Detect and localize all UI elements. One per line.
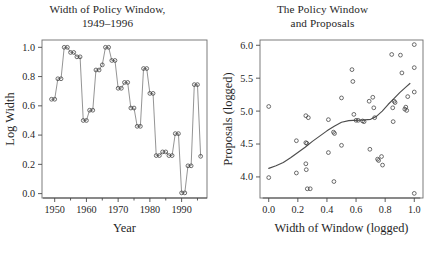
right-y-tick-label: 4.0 xyxy=(240,171,253,182)
left-y-tick-label: 0.8 xyxy=(22,71,35,82)
left-x-tick-label: 1990 xyxy=(171,204,191,215)
left-y-tick-label: 0.4 xyxy=(22,129,35,140)
right-x-tick-label: 0.0 xyxy=(262,204,275,215)
left-y-tick-label: 0.0 xyxy=(22,188,35,199)
right-x-tick-label: 1.0 xyxy=(408,204,421,215)
panel-width-of-policy-window: Width of Policy Window, 1949–1996 0.00.2… xyxy=(0,0,215,256)
figure-container: Width of Policy Window, 1949–1996 0.00.2… xyxy=(0,0,430,256)
loess-smoother-curve xyxy=(269,83,410,168)
left-y-tick-label: 0.6 xyxy=(22,100,35,111)
left-y-tick-label: 1.0 xyxy=(22,42,35,53)
left-x-tick-label: 1970 xyxy=(108,204,128,215)
right-y-tick-label: 5.0 xyxy=(240,106,253,117)
right-y-tick-label: 6.0 xyxy=(240,40,253,51)
left-x-tick-label: 1960 xyxy=(76,204,96,215)
right-plot-svg: 4.04.55.05.56.00.00.20.40.60.81.0Width o… xyxy=(215,0,430,256)
right-y-tick-label: 4.5 xyxy=(240,138,253,149)
left-y-axis-title: Log Width xyxy=(3,92,17,146)
right-x-tick-label: 0.8 xyxy=(379,204,392,215)
right-x-axis-title: Width of Window (logged) xyxy=(274,221,408,235)
log-width-series-line xyxy=(52,47,201,193)
left-plot-svg: 0.00.20.40.60.81.019501960197019801990Ye… xyxy=(0,0,215,256)
left-x-tick-label: 1950 xyxy=(45,204,65,215)
panel-policy-window-and-proposals: The Policy Window and Proposals 4.04.55.… xyxy=(215,0,430,256)
right-x-tick-label: 0.2 xyxy=(291,204,304,215)
left-x-tick-label: 1980 xyxy=(140,204,160,215)
left-x-axis-title: Year xyxy=(113,221,137,235)
left-y-tick-label: 0.2 xyxy=(22,159,35,170)
right-y-tick-label: 5.5 xyxy=(240,73,253,84)
right-x-tick-label: 0.6 xyxy=(350,204,363,215)
proposals-scatter-markers xyxy=(267,43,416,196)
log-width-markers xyxy=(50,45,203,194)
right-y-axis-title: Proposals (logged) xyxy=(221,72,235,165)
right-x-tick-label: 0.4 xyxy=(321,204,334,215)
